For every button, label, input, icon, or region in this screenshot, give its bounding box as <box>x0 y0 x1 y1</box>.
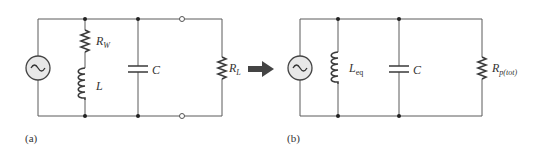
resistor-rptot-icon <box>478 57 486 79</box>
label-rl: RL <box>228 61 241 77</box>
panel-a: RW L C RL (a) <box>25 17 241 146</box>
resistor-rw-icon <box>81 30 89 52</box>
label-l: L <box>95 79 103 93</box>
capacitor-c-icon <box>128 66 148 72</box>
junction-dots-b <box>336 17 401 118</box>
resistor-rl-icon <box>218 57 226 79</box>
rails-b <box>300 19 482 116</box>
right-arrow-icon <box>248 61 274 77</box>
panel-b: Leq C Rp(tot) (b) <box>287 17 517 145</box>
circuit-diagram: RW L C RL (a) Leq <box>0 0 544 153</box>
label-rw: RW <box>95 34 111 50</box>
rails-a <box>38 19 222 116</box>
terminal-top <box>180 17 185 22</box>
ac-source-icon <box>288 56 312 80</box>
label-leq: Leq <box>348 61 363 77</box>
ac-source-icon <box>26 56 50 80</box>
caption-b: (b) <box>287 132 300 145</box>
terminal-bottom <box>180 114 185 119</box>
capacitor-c-icon <box>389 66 409 72</box>
label-rptot: Rp(tot) <box>491 61 517 77</box>
caption-a: (a) <box>25 132 38 145</box>
inductor-l-icon <box>78 68 85 100</box>
inductor-leq-icon <box>331 52 338 84</box>
label-c: C <box>152 63 161 77</box>
junction-dots-a <box>83 17 140 118</box>
label-c: C <box>413 63 422 77</box>
